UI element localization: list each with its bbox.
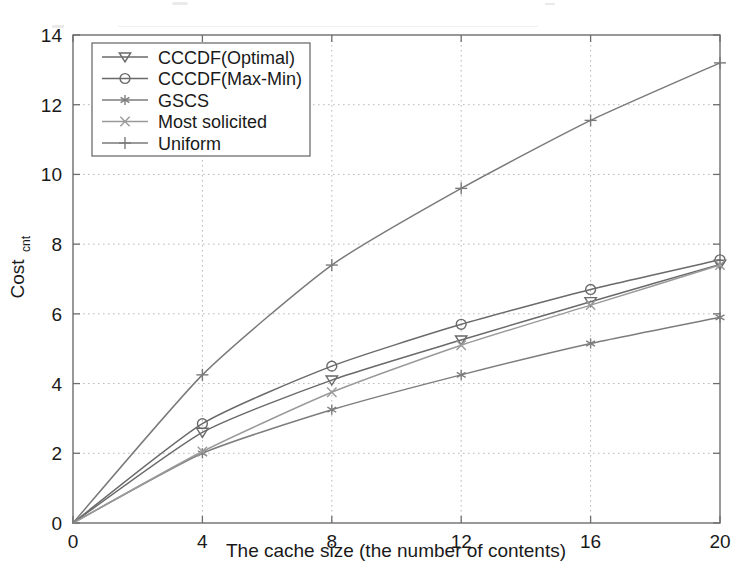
data-point-plus [714,57,726,69]
legend-item-label: CCCDF(Optimal) [158,48,295,68]
data-point-x-cross [457,341,466,350]
line-chart: 02468101214048121620 The cache size (the… [0,0,741,567]
y-tick-label: 14 [41,25,63,46]
x-axis-title: The cache size (the number of contents) [226,540,566,561]
data-point-asterisk [457,370,466,380]
data-point-asterisk [327,405,336,415]
data-point-plus [326,259,338,271]
x-tick-label: 0 [68,531,79,552]
y-tick-label: 10 [41,164,62,185]
chart-figure: 02468101214048121620 The cache size (the… [0,0,741,567]
legend-item-label: CCCDF(Max-Min) [158,69,302,89]
y-axis-title-main: Cost [7,259,28,299]
series-line [73,265,720,523]
y-tick-label: 8 [51,234,62,255]
series-line [73,317,720,523]
y-tick-label: 6 [51,304,62,325]
x-tick-label: 16 [580,531,601,552]
legend-item-label: GSCS [158,91,209,111]
y-tick-label: 12 [41,95,62,116]
series-1 [73,255,725,523]
y-axis-title: Cost cnt [7,235,33,298]
y-tick-label: 0 [51,513,62,534]
legend-item-label: Uniform [158,134,221,154]
x-tick-label: 20 [709,531,730,552]
y-axis-title-subscript: cnt [19,235,33,252]
y-tick-label: 2 [51,443,62,464]
legend-item-label: Most solicited [158,112,267,132]
data-point-plus [455,182,467,194]
y-tick-label: 4 [51,374,62,395]
x-tick-label: 4 [197,531,208,552]
chart-legend: CCCDF(Optimal)CCCDF(Max-Min)GSCSMost sol… [92,43,310,156]
series-line [73,264,720,523]
data-point-plus [585,114,597,126]
